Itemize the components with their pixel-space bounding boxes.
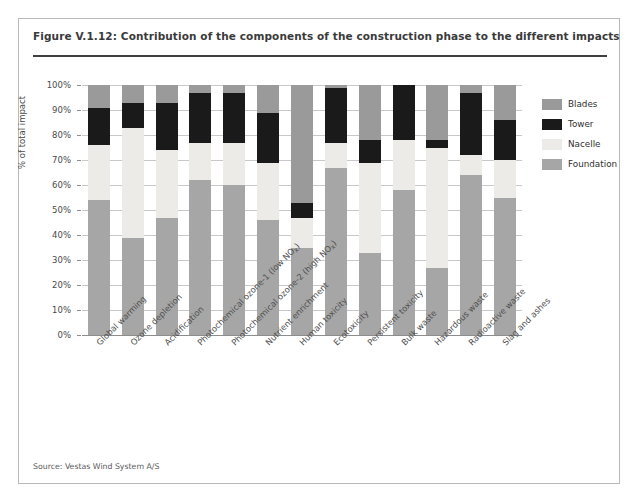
bar-segment-foundation (88, 200, 110, 335)
legend-item-nacelle[interactable]: Nacelle (542, 137, 620, 154)
bar-segment-nacelle (359, 163, 381, 253)
y-tick-label: 100% (27, 81, 71, 90)
y-tick-mark-40 (77, 235, 81, 236)
y-tick-label: 40% (27, 231, 71, 240)
y-tick-label: 80% (27, 131, 71, 140)
bar-segment-nacelle (156, 150, 178, 218)
y-tick-label: 60% (27, 181, 71, 190)
bar-column[interactable] (189, 85, 211, 335)
y-tick-mark-70 (77, 160, 81, 161)
bar-segment-blades (494, 85, 516, 120)
bar-segment-blades (291, 85, 313, 203)
bar-segment-tower (426, 140, 448, 148)
bar-segment-tower (189, 93, 211, 143)
bar-segment-tower (122, 103, 144, 128)
y-tick-label: 90% (27, 106, 71, 115)
bar-segment-blades (88, 85, 110, 108)
bar-segment-tower (257, 113, 279, 163)
bar-segment-tower (359, 140, 381, 163)
figure-title: Figure V.1.12: Contribution of the compo… (33, 30, 605, 42)
bar-segment-tower (223, 93, 245, 143)
bar-segment-tower (156, 103, 178, 151)
y-tick-mark-30 (77, 260, 81, 261)
legend-item-blades[interactable]: Blades (542, 97, 620, 114)
y-tick-mark-100 (77, 85, 81, 86)
bar-segment-blades (156, 85, 178, 103)
bar-segment-nacelle (88, 145, 110, 200)
bar-segment-nacelle (223, 143, 245, 186)
bar-segment-nacelle (325, 143, 347, 168)
bar-segment-nacelle (426, 148, 448, 268)
y-tick-label: 30% (27, 256, 71, 265)
legend-label: Nacelle (568, 138, 601, 151)
y-tick-label: 0% (27, 331, 71, 340)
bar-segment-nacelle (393, 140, 415, 190)
y-axis-title: % of total impact (17, 96, 27, 169)
legend-swatch-foundation (542, 159, 562, 170)
bar-segment-blades (325, 85, 347, 88)
bar-segment-blades (460, 85, 482, 93)
y-tick-mark-60 (77, 185, 81, 186)
bar-segment-tower (494, 120, 516, 160)
y-tick-mark-20 (77, 285, 81, 286)
y-tick-label: 10% (27, 306, 71, 315)
bar-segment-tower (460, 93, 482, 156)
y-tick-label: 50% (27, 206, 71, 215)
bar-segment-tower (88, 108, 110, 146)
legend-swatch-nacelle (542, 139, 562, 150)
bar-segment-blades (223, 85, 245, 93)
legend-label: Foundation (568, 158, 617, 171)
y-tick-mark-80 (77, 135, 81, 136)
bar-column[interactable] (88, 85, 110, 335)
bar-segment-nacelle (122, 128, 144, 238)
figure-panel: Figure V.1.12: Contribution of the compo… (18, 18, 620, 484)
legend-swatch-tower (542, 119, 562, 130)
bar-segment-blades (189, 85, 211, 93)
bar-segment-nacelle (189, 143, 211, 181)
y-tick-mark-50 (77, 210, 81, 211)
bar-segment-nacelle (257, 163, 279, 221)
plot-area: 0%10%20%30%40%50%60%70%80%90%100% (82, 85, 522, 335)
bar-column[interactable] (359, 85, 381, 335)
figure-title-bar: Figure V.1.12: Contribution of the compo… (19, 19, 619, 57)
legend-item-foundation[interactable]: Foundation (542, 157, 620, 174)
legend-item-tower[interactable]: Tower (542, 117, 620, 134)
y-tick-label: 20% (27, 281, 71, 290)
source-note: Source: Vestas Wind System A/S (33, 462, 159, 471)
bar-segment-nacelle (494, 160, 516, 198)
y-tick-mark-90 (77, 110, 81, 111)
bar-segment-tower (393, 85, 415, 140)
legend-label: Blades (568, 98, 597, 111)
bar-segment-tower (325, 88, 347, 143)
bar-segment-foundation (426, 268, 448, 336)
y-tick-label: 70% (27, 156, 71, 165)
legend-swatch-blades (542, 99, 562, 110)
bar-segment-blades (122, 85, 144, 103)
y-tick-mark-10 (77, 310, 81, 311)
y-tick-mark-0 (77, 335, 81, 336)
bar-column[interactable] (426, 85, 448, 335)
bar-segment-tower (291, 203, 313, 218)
bar-segment-nacelle (460, 155, 482, 175)
title-divider (33, 55, 607, 57)
legend-label: Tower (568, 118, 593, 131)
bar-segment-blades (359, 85, 381, 140)
bar-segment-blades (257, 85, 279, 113)
bar-segment-blades (426, 85, 448, 140)
chart-legend: BladesTowerNacelleFoundation (542, 97, 620, 177)
x-axis-labels: Global warmingOzone depletionAcidificati… (82, 337, 542, 457)
